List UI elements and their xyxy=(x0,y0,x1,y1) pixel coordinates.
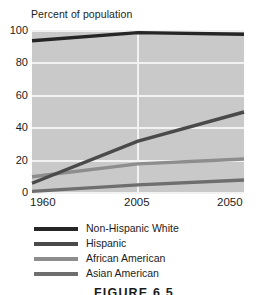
plot-area xyxy=(32,31,244,193)
legend-label: Non-Hispanic White xyxy=(86,223,179,234)
legend-label: Hispanic xyxy=(86,238,126,249)
legend-swatch xyxy=(34,227,78,231)
legend-item: African American xyxy=(34,252,244,265)
y-tick-label: 80 xyxy=(16,57,28,68)
x-tick-label: 2050 xyxy=(217,196,243,208)
x-tick-label: 2005 xyxy=(124,196,150,208)
y-tick-label: 60 xyxy=(16,90,28,101)
figure-caption: FIGURE 6.5 xyxy=(0,286,268,295)
x-tick-label: 1960 xyxy=(30,196,56,208)
legend-label: Asian American xyxy=(86,268,159,279)
y-tick-label: 100 xyxy=(10,25,28,36)
legend-item: Asian American xyxy=(34,267,244,280)
legend-label: African American xyxy=(86,253,165,264)
legend-swatch xyxy=(34,257,78,261)
y-tick-label: 40 xyxy=(16,122,28,133)
legend-swatch xyxy=(34,242,78,246)
figure-container: Percent of population 100806040200 19602… xyxy=(0,0,268,295)
chart-legend: Non-Hispanic WhiteHispanicAfrican Americ… xyxy=(34,222,244,282)
legend-item: Hispanic xyxy=(34,237,244,250)
y-tick-label: 20 xyxy=(16,155,28,166)
series-line xyxy=(32,33,244,41)
series-line xyxy=(32,180,244,191)
y-axis-tick-labels: 100806040200 xyxy=(0,31,28,193)
y-tick-label: 0 xyxy=(22,187,28,198)
legend-swatch xyxy=(34,272,78,276)
legend-item: Non-Hispanic White xyxy=(34,222,244,235)
series-line xyxy=(32,159,244,177)
y-axis-title: Percent of population xyxy=(31,8,132,20)
series-lines xyxy=(32,31,244,193)
